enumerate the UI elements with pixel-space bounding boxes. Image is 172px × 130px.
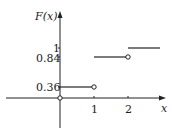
y-axis-label: F(x) <box>34 10 57 23</box>
y-axis-arrow-icon <box>58 11 63 18</box>
y-tick-label-1: 1 <box>53 42 60 55</box>
cdf-step-chart: F(x) x 1 2 0.36 0.84 1 <box>0 0 172 130</box>
y-tick-label-036: 0.36 <box>36 81 61 94</box>
x-tick-label-1: 1 <box>91 103 98 116</box>
x-axis-label: x <box>161 102 168 115</box>
open-point-0 <box>58 96 62 100</box>
open-point-2 <box>126 55 130 59</box>
open-point-1 <box>92 85 96 89</box>
x-tick-label-2: 2 <box>125 103 132 116</box>
x-axis-arrow-icon <box>159 96 166 101</box>
